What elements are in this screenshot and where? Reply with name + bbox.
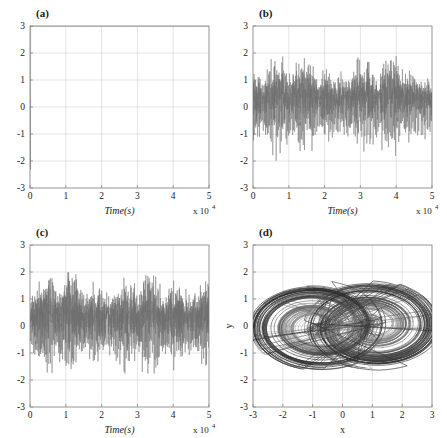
svg-text:3: 3	[20, 21, 25, 31]
svg-text:0: 0	[243, 102, 248, 112]
svg-text:2: 2	[99, 191, 104, 201]
x-axis-exponent: x 10	[416, 206, 432, 216]
svg-text:0: 0	[28, 410, 33, 420]
svg-text:2: 2	[243, 48, 248, 58]
panel-a-time-series: 012345-3-2-10123(a)Time(s)x 104	[0, 0, 223, 219]
svg-text:4: 4	[171, 410, 176, 420]
x-axis-title: Time(s)	[105, 424, 136, 436]
svg-text:0: 0	[251, 191, 256, 201]
x-axis-title: Time(s)	[328, 205, 359, 217]
svg-text:2: 2	[20, 267, 25, 277]
svg-text:1: 1	[20, 294, 25, 304]
svg-text:1: 1	[286, 191, 291, 201]
svg-text:1: 1	[63, 410, 68, 420]
plot-c: 012345-3-2-10123(c)Time(s)x 104	[0, 219, 223, 438]
svg-text:-3: -3	[17, 402, 25, 412]
svg-text:-3: -3	[240, 402, 248, 412]
x-axis-exponent-power: 4	[435, 203, 439, 210]
svg-text:(a): (a)	[36, 7, 49, 20]
plot-b: 012345-3-2-10123(b)Time(s)x 104	[223, 0, 446, 219]
panel-c-time-series: 012345-3-2-10123(c)Time(s)x 104	[0, 219, 223, 438]
svg-text:0: 0	[28, 191, 33, 201]
svg-text:3: 3	[20, 240, 25, 250]
svg-text:2: 2	[20, 48, 25, 58]
series-trace	[30, 26, 209, 170]
svg-text:2: 2	[99, 410, 104, 420]
x-axis-exponent-power: 4	[212, 203, 216, 210]
svg-text:-3: -3	[240, 183, 248, 193]
y-axis-title: y	[223, 324, 234, 329]
svg-text:2: 2	[243, 267, 248, 277]
svg-text:3: 3	[243, 21, 248, 31]
svg-text:4: 4	[171, 191, 176, 201]
svg-text:1: 1	[63, 191, 68, 201]
svg-text:3: 3	[430, 410, 435, 420]
svg-text:0: 0	[20, 102, 25, 112]
svg-text:0: 0	[340, 410, 345, 420]
svg-text:-1: -1	[17, 129, 25, 139]
attractor-orbits	[249, 281, 442, 370]
svg-text:5: 5	[430, 191, 435, 201]
panel-b-time-series: 012345-3-2-10123(b)Time(s)x 104	[223, 0, 446, 219]
plot-a: 012345-3-2-10123(a)Time(s)x 104	[0, 0, 223, 219]
svg-text:-2: -2	[17, 156, 25, 166]
svg-text:3: 3	[243, 240, 248, 250]
x-axis-exponent: x 10	[193, 206, 209, 216]
svg-text:-2: -2	[279, 410, 287, 420]
plot-d: -3-2-10123-3-2-10123(d)xy	[223, 219, 446, 438]
svg-text:(c): (c)	[36, 226, 49, 239]
svg-text:-1: -1	[240, 129, 248, 139]
x-axis-exponent-power: 4	[212, 422, 216, 429]
series-trace	[30, 272, 209, 374]
svg-text:5: 5	[207, 191, 212, 201]
svg-text:4: 4	[394, 191, 399, 201]
svg-text:-2: -2	[240, 156, 248, 166]
svg-text:-2: -2	[17, 375, 25, 385]
svg-text:2: 2	[322, 191, 327, 201]
svg-text:-1: -1	[240, 348, 248, 358]
svg-text:1: 1	[370, 410, 375, 420]
svg-text:3: 3	[135, 191, 140, 201]
x-axis-exponent: x 10	[193, 425, 209, 435]
svg-text:-1: -1	[309, 410, 317, 420]
svg-text:1: 1	[243, 75, 248, 85]
panel-d-phase-portrait: -3-2-10123-3-2-10123(d)xy	[223, 219, 446, 438]
series-trace	[253, 56, 432, 161]
x-axis-title: x	[340, 424, 345, 435]
svg-text:-2: -2	[240, 375, 248, 385]
svg-text:0: 0	[243, 321, 248, 331]
svg-text:1: 1	[20, 75, 25, 85]
svg-text:3: 3	[358, 191, 363, 201]
figure-chaotic-system: 012345-3-2-10123(a)Time(s)x 104 012345-3…	[0, 0, 447, 438]
svg-text:0: 0	[20, 321, 25, 331]
svg-text:(d): (d)	[259, 226, 273, 239]
svg-text:-3: -3	[17, 183, 25, 193]
svg-text:2: 2	[400, 410, 405, 420]
svg-text:-3: -3	[249, 410, 257, 420]
svg-text:-1: -1	[17, 348, 25, 358]
x-axis-title: Time(s)	[105, 205, 136, 217]
svg-text:1: 1	[243, 294, 248, 304]
svg-text:(b): (b)	[259, 7, 273, 20]
svg-text:5: 5	[207, 410, 212, 420]
svg-text:3: 3	[135, 410, 140, 420]
